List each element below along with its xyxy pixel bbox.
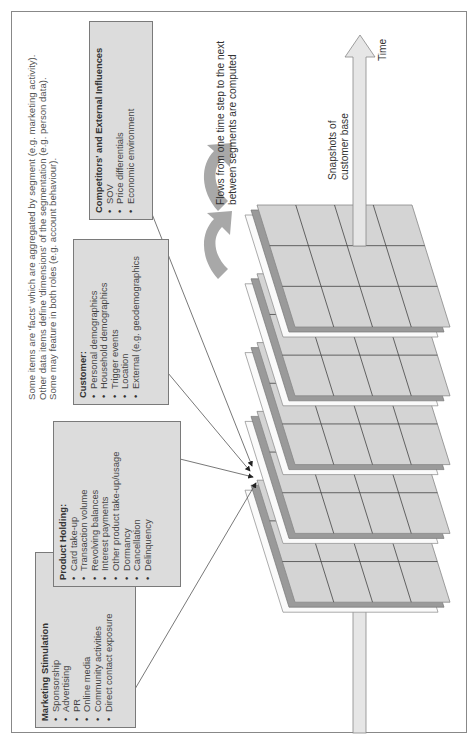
snapshots-label-line-2: customer base: [339, 113, 351, 180]
box-title: Product Holding:: [58, 428, 69, 580]
flows-label: Flows from one time step to the next bet…: [215, 41, 239, 205]
diagram-canvas: Some items are 'facts' which are aggrega…: [0, 0, 473, 751]
competitors-list: SOV Price differentials Economic environ…: [105, 28, 137, 213]
snapshot-slabs: [245, 205, 450, 612]
list-item: Other product take-up/usage: [111, 428, 122, 580]
box-title: Customer:: [78, 246, 89, 398]
time-axis-shaft-lower: [353, 593, 366, 733]
flows-label-line-1: Flows from one time step to the next: [215, 41, 227, 205]
product-list: Card take-up Transaction volume Revolvin…: [69, 428, 154, 580]
list-item: Delinquency: [143, 428, 154, 580]
competitors-external-box: Competitors' and External Influences SOV…: [89, 21, 153, 220]
list-item: External (e.g. geodemographics: [131, 246, 142, 398]
snapshots-label: Snapshots of customer base: [327, 113, 351, 180]
flows-label-line-2: between segments are computed: [227, 41, 239, 205]
curved-arrow-icon-1: [204, 211, 232, 279]
time-label: Time: [377, 39, 389, 61]
list-item: Economic environment: [126, 28, 137, 213]
box-title: Competitors' and External Influences: [94, 28, 105, 213]
box-title: Marketing Stimulation: [40, 559, 51, 721]
product-holding-box: Product Holding: Card take-up Transactio…: [53, 421, 181, 587]
snapshots-label-line-1: Snapshots of: [327, 113, 339, 180]
customer-list: Personal demographics Household demograp…: [89, 246, 142, 398]
customer-box: Customer: Personal demographics Househol…: [73, 239, 169, 405]
